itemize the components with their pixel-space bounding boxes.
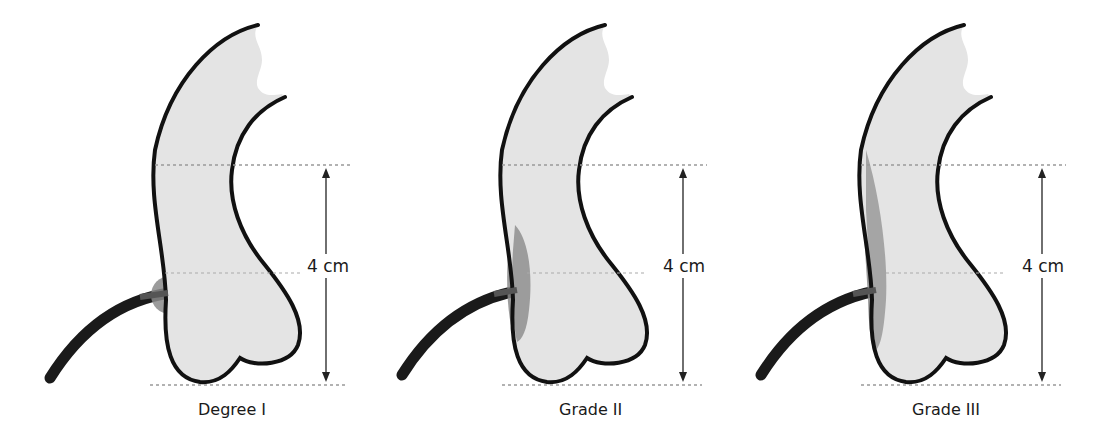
organ-illustration — [716, 0, 1082, 445]
panel-grade-2: 4 cm Grade II — [357, 0, 723, 445]
panel-label: Grade II — [559, 400, 622, 419]
measurement-label: 4 cm — [1022, 254, 1064, 278]
organ-illustration — [357, 0, 723, 445]
measurement-label: 4 cm — [663, 254, 705, 278]
panel-label: Degree I — [198, 400, 266, 419]
panel-degree-1: 4 cm Degree I — [0, 0, 366, 445]
panel-label: Grade III — [912, 400, 980, 419]
panel-grade-3: 4 cm Grade III — [716, 0, 1082, 445]
measurement-label: 4 cm — [307, 254, 349, 278]
organ-illustration — [0, 0, 366, 445]
